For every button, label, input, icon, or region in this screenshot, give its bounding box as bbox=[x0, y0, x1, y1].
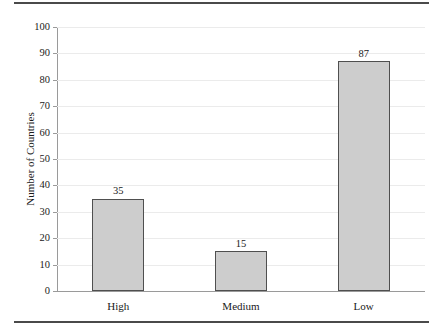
gridline: 90 bbox=[57, 53, 425, 54]
bar-value-label: 35 bbox=[113, 186, 124, 197]
y-tick-mark bbox=[53, 27, 57, 28]
bar-high[interactable]: 35High bbox=[92, 199, 144, 291]
y-tick-mark bbox=[53, 238, 57, 239]
x-category-label: Medium bbox=[222, 301, 259, 312]
x-category-label: High bbox=[107, 301, 129, 312]
y-tick-label: 40 bbox=[40, 180, 51, 191]
y-tick-mark bbox=[53, 106, 57, 107]
y-tick-label: 50 bbox=[40, 154, 51, 165]
bar-low[interactable]: 87Low bbox=[338, 61, 390, 291]
y-tick-mark bbox=[53, 53, 57, 54]
y-tick-mark bbox=[53, 212, 57, 213]
bar-value-label: 87 bbox=[358, 49, 369, 60]
y-tick-label: 80 bbox=[40, 75, 51, 86]
y-tick-mark bbox=[53, 265, 57, 266]
y-tick-mark bbox=[53, 185, 57, 186]
figure-bottom-rule bbox=[14, 321, 429, 323]
gridline: 100 bbox=[57, 27, 425, 28]
x-category-label: Low bbox=[354, 301, 374, 312]
y-tick-label: 10 bbox=[40, 259, 51, 270]
y-tick-label: 100 bbox=[34, 22, 50, 33]
y-tick-mark bbox=[53, 133, 57, 134]
y-tick-label: 60 bbox=[40, 127, 51, 138]
y-tick-mark bbox=[53, 159, 57, 160]
bar-value-label: 15 bbox=[236, 239, 247, 250]
y-tick-mark bbox=[53, 291, 57, 292]
y-tick-label: 70 bbox=[40, 101, 51, 112]
y-axis-title: Number of Countries bbox=[22, 27, 38, 291]
bar-chart-figure: Number of Countries 01020304050607080901… bbox=[0, 0, 443, 333]
plot-area: 0102030405060708090100 35High15Medium87L… bbox=[57, 27, 425, 291]
bar-medium[interactable]: 15Medium bbox=[215, 251, 267, 291]
axis-baseline: 0 bbox=[57, 291, 425, 292]
y-tick-label: 0 bbox=[45, 286, 50, 297]
y-tick-label: 30 bbox=[40, 207, 51, 218]
y-tick-mark bbox=[53, 80, 57, 81]
y-tick-label: 20 bbox=[40, 233, 51, 244]
y-tick-label: 90 bbox=[40, 48, 51, 59]
figure-top-rule bbox=[14, 2, 429, 4]
